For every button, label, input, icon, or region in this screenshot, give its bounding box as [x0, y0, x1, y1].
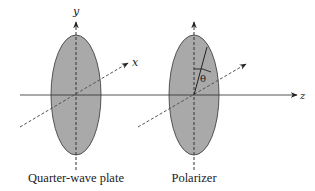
optics-diagram: y x z θ Quarter-wave plate Polarizer [0, 0, 315, 191]
z-axis-label: z [299, 90, 306, 101]
y-axis-label: y [72, 5, 80, 18]
quarter-wave-plate-caption: Quarter-wave plate [28, 171, 124, 186]
diagram-canvas: y x z θ [0, 0, 315, 191]
theta-label: θ [200, 73, 206, 84]
x-axis-label: x [132, 56, 139, 69]
polarizer-caption: Polarizer [171, 171, 216, 186]
